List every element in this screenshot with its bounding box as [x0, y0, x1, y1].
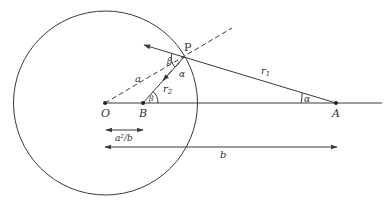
label-beta-at-P: β [166, 56, 172, 66]
label-alpha-at-P: α [179, 69, 185, 79]
label-beta-at-B: β [148, 94, 154, 103]
beta-arc-at-B [153, 92, 158, 104]
label-r2: r2 [163, 83, 173, 96]
label-r1: r1 [261, 65, 270, 78]
label-O: O [101, 107, 110, 120]
r2-arrow [163, 71, 172, 81]
label-b: b [220, 149, 226, 160]
r1-subscript: 1 [266, 70, 270, 78]
alpha-arc-at-A [301, 93, 302, 103]
label-B: B [138, 107, 147, 120]
point-O [103, 101, 107, 105]
label-a: a [135, 73, 141, 84]
point-B [141, 101, 145, 105]
label-P: P [184, 41, 192, 54]
point-A [334, 101, 338, 105]
label-a2-over-b: a²/b [115, 133, 133, 143]
r2-subscript: 2 [167, 88, 173, 96]
image-charge-diagram: P O B A a r1 r2 β α β α a²/b b [0, 0, 390, 204]
label-A: A [331, 107, 340, 120]
label-alpha-at-A: α [304, 94, 310, 104]
